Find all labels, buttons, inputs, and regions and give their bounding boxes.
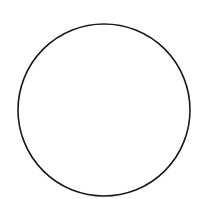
diagram-canvas [0,0,205,199]
diagram-svg [0,0,205,199]
circle-shape [18,24,190,196]
